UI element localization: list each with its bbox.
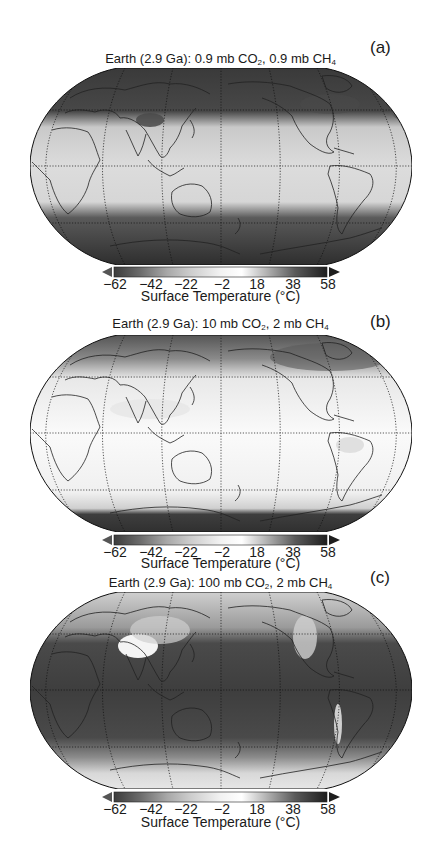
panel-title: Earth (2.9 Ga): 10 mb CO2, 2 mb CH4 (0, 316, 441, 332)
colorbar-label: Surface Temperature (°C) (0, 814, 441, 830)
panel-a: (a) Earth (2.9 Ga): 0.9 mb CO2, 0.9 mb C… (0, 0, 441, 300)
panel-b: (b) Earth (2.9 Ga): 10 mb CO2, 2 mb CH4 … (0, 267, 441, 567)
temperature-map (30, 68, 412, 265)
panel-title: Earth (2.9 Ga): 0.9 mb CO2, 0.9 mb CH4 (0, 51, 441, 67)
panel-c: (c) Earth (2.9 Ga): 100 mb CO2, 2 mb CH4… (0, 524, 441, 824)
temperature-map (30, 335, 412, 532)
panel-title: Earth (2.9 Ga): 100 mb CO2, 2 mb CH4 (0, 575, 441, 591)
temperature-map (30, 592, 412, 789)
